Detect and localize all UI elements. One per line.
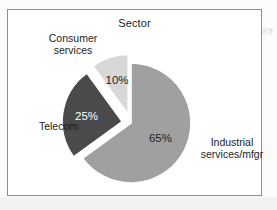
pie-label-consumer-services-line1: Consumer — [49, 32, 97, 44]
bleed-bottom-band — [0, 197, 277, 210]
pie-label-industrial-line2: services/mfgr — [194, 148, 270, 160]
chart-page: estment Strategy iew are expecte he fiel… — [0, 0, 277, 210]
pie-label-consumer-services-line2: services — [25, 44, 121, 56]
pie-label-consumer-services: Consumer services — [25, 32, 121, 56]
pie-slice-percent-label: 65% — [149, 132, 172, 144]
pie-label-industrial: Industrial services/mfgr — [194, 136, 270, 160]
pie-label-industrial-line1: Industrial — [211, 136, 254, 148]
chart-frame: Sector 65%25%10% Consumer services Telec… — [7, 9, 262, 196]
pie-slice-percent-label: 25% — [75, 110, 98, 122]
pie-slice-percent-label: 10% — [106, 74, 129, 86]
pie-label-telecom: Telecom — [18, 120, 78, 132]
